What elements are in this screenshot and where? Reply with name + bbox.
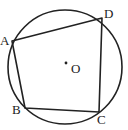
- label-o: O: [71, 61, 80, 76]
- center-point: [65, 62, 68, 65]
- label-b: B: [12, 102, 21, 117]
- label-a: A: [0, 33, 10, 48]
- cyclic-quadrilateral-diagram: A B C D O: [0, 0, 128, 130]
- label-d: D: [104, 6, 113, 21]
- quadrilateral-abcd: [12, 18, 102, 112]
- label-c: C: [97, 112, 106, 127]
